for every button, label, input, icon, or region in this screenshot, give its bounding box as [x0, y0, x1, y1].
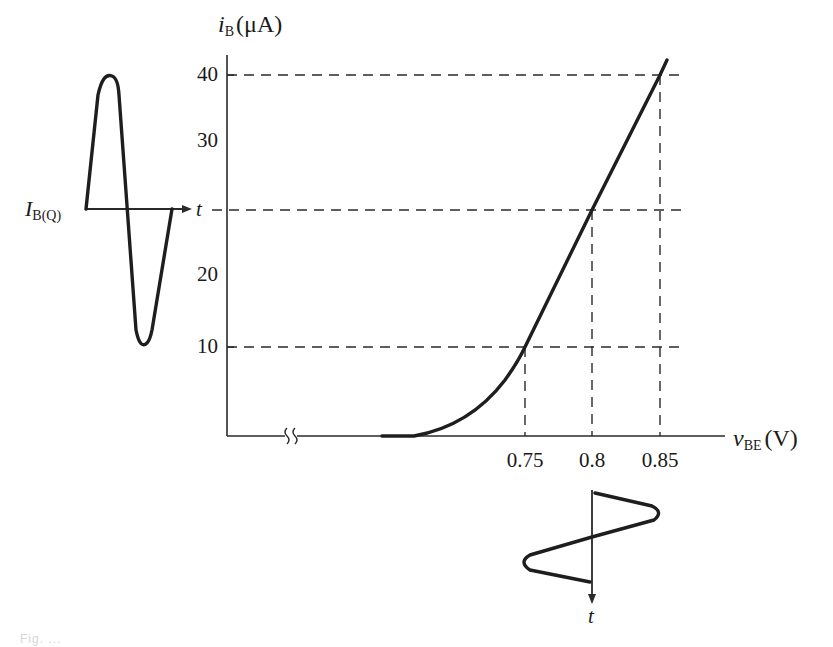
input-time-label: t — [588, 606, 594, 627]
y-tick-20: 20 — [178, 264, 218, 285]
input-time-arrow-icon — [588, 594, 596, 604]
y-axis-var: i — [218, 11, 225, 37]
y-tick-30: 30 — [178, 130, 218, 151]
y-tick-40: 40 — [178, 64, 218, 85]
ib-vbe-curve — [382, 60, 667, 436]
x-axis-var: v — [733, 425, 744, 451]
y-axis-sub: B — [225, 24, 234, 39]
quiescent-sub: B(Q) — [32, 208, 61, 223]
quiescent-current-label: IB(Q) — [25, 198, 61, 220]
y-tick-10: 10 — [178, 336, 218, 357]
y-axis-unit: (μA) — [236, 11, 282, 37]
x-axis-label: vBE(V) — [733, 426, 798, 450]
x-tick-0.8: 0.8 — [562, 450, 622, 471]
axis-break-icon — [285, 428, 297, 444]
output-time-label: t — [196, 199, 202, 220]
x-tick-0.85: 0.85 — [630, 450, 690, 471]
output-ib-waveform — [86, 75, 172, 344]
output-time-arrow-icon — [182, 205, 192, 213]
x-tick-0.75: 0.75 — [495, 450, 555, 471]
figure-caption: Fig. ... — [20, 632, 61, 646]
y-axis-label: iB(μA) — [218, 12, 282, 36]
x-axis-unit: (V) — [765, 425, 798, 451]
x-axis-sub: BE — [744, 438, 762, 453]
